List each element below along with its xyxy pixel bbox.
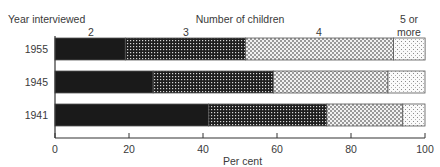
chart-plot-area [0,0,440,167]
bar-segment-1941-3 [209,104,327,126]
series-label-3: 3 [183,26,189,38]
x-tick-label-80: 80 [345,143,357,155]
bar-segment-1945-5-or-more [388,71,425,93]
bar-segment-1945-4 [273,71,388,93]
bar-segment-1955-4 [246,38,394,60]
series-label-4: 4 [316,26,322,38]
x-axis-label: Per cent [223,155,262,167]
bar-segment-1945-2 [55,71,153,93]
bar-group [55,38,425,126]
x-tick-label-0: 0 [52,143,58,155]
bar-segment-1955-3 [125,38,245,60]
bar-segment-1941-5-or-more [403,104,425,126]
year-label-1955: 1955 [25,43,48,55]
series-label-2: 2 [88,26,94,38]
legend-title: Number of children [196,13,285,25]
series-label-5-or-more-line2: more [397,26,421,38]
x-tick-label-100: 100 [416,143,434,155]
bar-segment-1941-2 [55,104,209,126]
year-label-1945: 1945 [25,76,48,88]
x-tick-label-20: 20 [123,143,135,155]
year-label-1941: 1941 [25,109,48,121]
bar-segment-1941-4 [327,104,403,126]
row-axis-title: Year interviewed [8,13,85,25]
bar-segment-1945-3 [153,71,273,93]
bar-segment-1955-2 [55,38,125,60]
x-tick-label-60: 60 [271,143,283,155]
bar-segment-1955-5-or-more [394,38,426,60]
series-label-5-or-more-line1: 5 or [400,13,418,25]
x-tick-label-40: 40 [197,143,209,155]
